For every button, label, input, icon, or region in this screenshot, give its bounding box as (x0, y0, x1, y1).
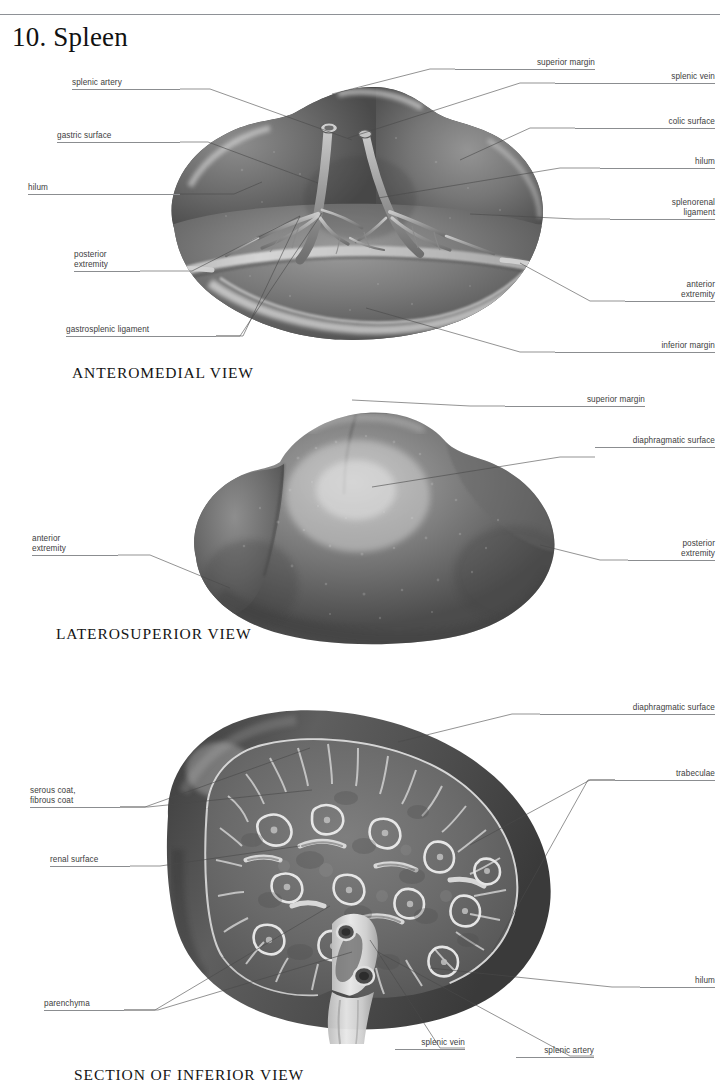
label-hilum-right: hilum (600, 157, 715, 169)
label-trabeculae: trabeculae (615, 769, 715, 781)
label-splenic-vein-1: splenic vein (555, 72, 715, 84)
figure-anteromedial-view (150, 78, 570, 348)
label-anterior-extremity-2: anterior extremity (32, 534, 118, 556)
label-gastric-surface: gastric surface (57, 131, 180, 143)
label-diaphragmatic-surface-3: diaphragmatic surface (540, 703, 715, 715)
spleen-laterosuperior-illustration (180, 398, 570, 648)
label-posterior-extremity: posterior extremity (74, 250, 140, 272)
label-splenorenal-ligament: splenorenal ligament (610, 198, 715, 220)
caption-anteromedial-view: ANTEROMEDIAL VIEW (72, 364, 254, 382)
spleen-section-illustration (150, 700, 560, 1045)
label-superior-margin-1: superior margin (455, 58, 595, 70)
figure-section-inferior-view (150, 700, 560, 1045)
label-hilum-left: hilum (28, 183, 180, 195)
label-posterior-extremity-2: posterior extremity (628, 539, 715, 561)
figure-laterosuperior-view (180, 398, 570, 648)
header-divider (0, 14, 720, 15)
label-parenchyma: parenchyma (44, 999, 124, 1011)
label-superior-margin-2: superior margin (505, 395, 645, 407)
spleen-anteromedial-illustration (150, 78, 570, 348)
caption-section-inferior-view: SECTION OF INFERIOR VIEW (74, 1066, 304, 1081)
label-hilum-3: hilum (640, 976, 715, 988)
label-gastrosplenic-ligament: gastrosplenic ligament (66, 325, 216, 337)
page-title: 10. Spleen (12, 22, 128, 53)
label-diaphragmatic-surface-2: diaphragmatic surface (595, 436, 715, 448)
label-colic-surface: colic surface (575, 117, 715, 129)
label-splenic-artery-3: splenic artery (516, 1046, 594, 1058)
label-renal-surface: renal surface (50, 855, 130, 867)
caption-laterosuperior-view: LATEROSUPERIOR VIEW (56, 625, 252, 643)
label-inferior-margin: inferior margin (555, 341, 715, 353)
atlas-page: 10. Spleen (0, 0, 720, 1081)
label-splenic-artery: splenic artery (72, 78, 180, 90)
label-serous-fibrous-coat: serous coat, fibrous coat (30, 786, 120, 808)
label-anterior-extremity-1: anterior extremity (625, 280, 715, 302)
label-splenic-vein-3: splenic vein (395, 1038, 465, 1050)
